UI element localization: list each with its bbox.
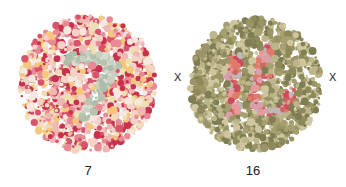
dot-pattern-left <box>0 0 173 160</box>
x-marker-right: X <box>329 71 336 83</box>
ishihara-plate-7 <box>0 0 173 160</box>
plate-caption-7: 7 <box>68 163 108 178</box>
ishihara-plate-16 <box>173 0 346 160</box>
plate-caption-16: 16 <box>233 163 273 178</box>
dot-pattern-right <box>173 0 346 160</box>
x-marker-left: X <box>174 71 181 83</box>
